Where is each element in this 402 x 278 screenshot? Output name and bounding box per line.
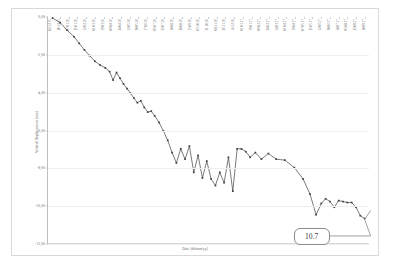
chart-frame: Vertical Displacement [mm] 0,00-2,00-4,0… [11, 8, 379, 256]
callout-label: 10.7 [305, 232, 318, 241]
value-callout-box: 10.7 [294, 228, 330, 245]
callout-leader-line [12, 9, 380, 257]
